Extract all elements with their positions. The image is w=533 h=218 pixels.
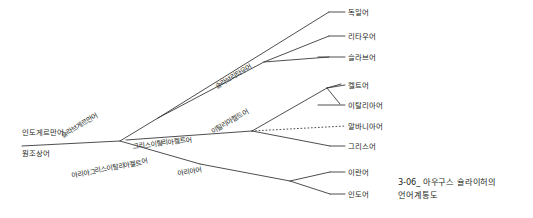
leaf-label-indic: 인도어 bbox=[348, 190, 369, 199]
leaf-label-celtic: 켈트어 bbox=[348, 81, 369, 90]
leaf-label-german: 독일어 bbox=[348, 8, 369, 17]
edge-root-trunk bbox=[22, 141, 120, 146]
leaf-label-iranian: 이란어 bbox=[348, 168, 369, 177]
edge-greek bbox=[252, 131, 330, 146]
root-label-above: 인도게르만어 bbox=[22, 128, 63, 137]
edge-slav-germanic bbox=[120, 118, 158, 141]
edge-indic bbox=[290, 181, 330, 194]
edge-albanian bbox=[252, 126, 345, 131]
edge-aryan bbox=[200, 164, 290, 181]
leaf-label-greek: 그리스어 bbox=[348, 142, 376, 151]
leaf-label-lithuanian: 리타우어 bbox=[348, 32, 376, 41]
figure-caption: 3-06_ 아우구스 슐라이허의 언어계통도 bbox=[398, 176, 496, 201]
leaf-label-albanian: 알바니아어 bbox=[348, 122, 383, 131]
edge-italic-branch bbox=[327, 88, 345, 105]
edge-italo-celtic bbox=[252, 88, 327, 131]
leaf-label-slavic: 슬라브어 bbox=[348, 53, 376, 62]
edge-iranian bbox=[290, 172, 330, 181]
edge-to-greek-italo-celtic bbox=[200, 131, 252, 164]
language-family-tree-figure: 인도게르만어 원조상어 슬라브게르만어 슬라브리타우어 그리스이탈리아켈트어 이… bbox=[0, 0, 533, 218]
edge-italic-connector bbox=[327, 88, 340, 104]
leaf-label-italic: 이탈리아어 bbox=[348, 101, 383, 110]
root-label-below: 원조상어 bbox=[22, 149, 50, 158]
